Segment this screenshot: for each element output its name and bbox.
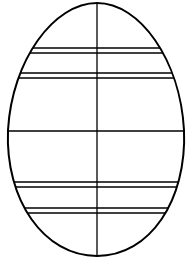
- egg-outline: [8, 3, 184, 256]
- egg-figure: [0, 0, 187, 259]
- egg-lines: [0, 0, 187, 259]
